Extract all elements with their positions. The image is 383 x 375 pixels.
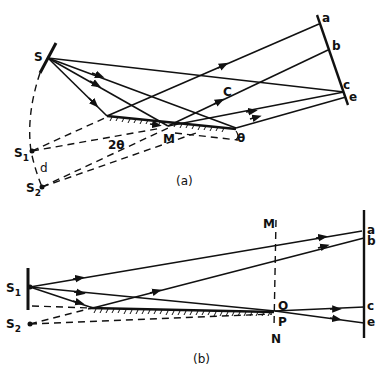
label-screen-a-b: b: [332, 39, 341, 53]
ray-p-to-c: [275, 307, 364, 311]
arrow-icon: [74, 292, 81, 293]
label-m-a: M: [163, 132, 175, 146]
label-screen-a-e: e: [349, 90, 357, 104]
label-screen-b-e: e: [367, 315, 375, 329]
label-n-b: N: [271, 332, 281, 346]
label-s2-b: S2: [6, 317, 21, 334]
arrow-icon: [150, 124, 157, 125]
arrow-icon: [246, 111, 253, 112]
virtual-line-s2-a: [42, 128, 168, 187]
arrow-icon: [330, 318, 337, 319]
caption-b: (b): [193, 352, 210, 366]
label-o-b: O: [278, 299, 288, 313]
arrow-icon: [250, 117, 257, 119]
virtual-line-s1-left: [32, 117, 107, 151]
ray-m-to-c: [168, 92, 344, 126]
label-screen-b-c: c: [367, 299, 374, 313]
caption-a: (a): [176, 174, 193, 188]
label-theta: θ: [237, 131, 245, 145]
point-s1-a: [30, 149, 35, 154]
label-s1: S1: [14, 146, 29, 163]
mirror-a: [107, 116, 236, 129]
arrow-icon: [73, 278, 80, 279]
panel-b: S1 S2 M N O P a b c e (b): [6, 210, 376, 366]
label-d: d: [40, 161, 48, 175]
label-2theta: 2θ: [108, 138, 125, 152]
label-s1-b: S1: [6, 281, 21, 298]
arrow-icon: [150, 291, 157, 293]
label-p-b: P: [278, 315, 287, 329]
label-s2: S2: [26, 181, 41, 198]
arrow-icon: [316, 237, 323, 238]
lloyds-mirror-diagram: S S1 S2 d 2θ θ M C a b c e (a): [0, 0, 383, 375]
ray-p-to-e: [275, 311, 364, 323]
label-m-b: M: [263, 217, 275, 231]
ray-reflect-to-b: [93, 238, 364, 308]
label-s: S: [34, 50, 43, 64]
label-screen-a-a: a: [322, 11, 330, 25]
label-c-ray: C: [223, 85, 232, 99]
panel-a: S S1 S2 d 2θ θ M C a b c e (a): [14, 11, 357, 198]
virtual-line-s1-horizontal: [32, 306, 92, 308]
label-screen-b-b: b: [367, 234, 376, 248]
arrow-icon: [73, 301, 80, 303]
arrow-icon: [218, 65, 224, 68]
arrow-icon: [89, 98, 95, 104]
mirror-extension-dashed: [175, 133, 238, 140]
virtual-line-s2-p: [30, 314, 272, 324]
